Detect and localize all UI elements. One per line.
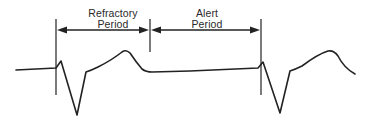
ecg-diagram: Refractory Period Alert Period [0,0,368,123]
alert-period-label: Alert Period [172,8,242,30]
alert-label-line2: Period [172,19,242,30]
refractory-period-label: Refractory Period [78,8,148,30]
ecg-trace [16,51,355,115]
refractory-label-line2: Period [78,19,148,30]
